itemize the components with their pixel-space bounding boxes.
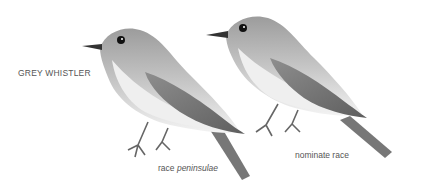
caption-prefix: race [158, 163, 177, 173]
bird-left [82, 28, 250, 180]
illustration-plate: GREY WHISTLER race peninsulae nominate r… [0, 0, 428, 196]
caption-race-name: peninsulae [177, 163, 218, 173]
bird-right [206, 16, 392, 158]
species-title: GREY WHISTLER [18, 68, 91, 78]
caption-left: race peninsulae [158, 163, 218, 173]
caption-right: nominate race [295, 150, 349, 160]
